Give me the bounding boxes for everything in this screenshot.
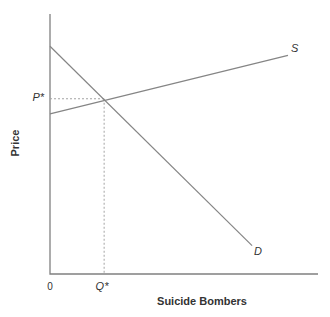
origin-label: 0 — [47, 281, 53, 292]
supply-demand-figure: Price Suicide Bombers 0 Q* P* S D — [0, 0, 330, 317]
demand-curve — [50, 46, 252, 245]
supply-curve — [50, 55, 288, 113]
equilibrium-price-label: P* — [32, 91, 44, 103]
equilibrium-quantity-label: Q* — [96, 280, 110, 292]
y-axis-label: Price — [9, 130, 21, 157]
supply-curve-label: S — [291, 42, 299, 54]
supply-demand-chart: Price Suicide Bombers 0 Q* P* S D — [0, 0, 330, 317]
demand-curve-label: D — [254, 245, 262, 257]
x-axis-label: Suicide Bombers — [157, 295, 247, 307]
axes — [50, 14, 318, 274]
axes-and-curves — [50, 14, 318, 274]
